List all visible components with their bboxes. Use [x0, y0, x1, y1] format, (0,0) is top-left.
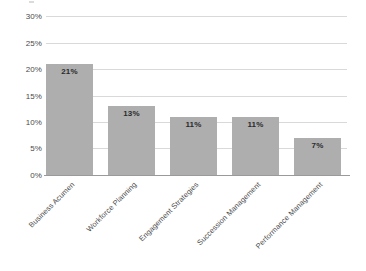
bar-chart: 30% 25% 20% 15% 10% 5% 0% 21% 13% [0, 0, 366, 271]
bar-value-label-4: 7% [294, 141, 341, 150]
y-tick-label-10: 10% [26, 118, 42, 127]
bar-slot-0: 21% [46, 16, 93, 175]
x-axis-baseline [44, 175, 350, 176]
bar-value-label-0: 21% [46, 67, 93, 76]
bar-business-acumen[interactable]: 21% [46, 64, 93, 175]
bar-performance-management[interactable]: 7% [294, 138, 341, 175]
x-axis-category-labels: Business Acumen Workforce Planning Engag… [46, 178, 347, 268]
x-label-slot-4: Performance Management [294, 178, 341, 268]
bar-slot-2: 11% [170, 16, 217, 175]
x-label-business-acumen: Business Acumen [26, 180, 75, 229]
y-tick-label-5: 5% [30, 144, 42, 153]
y-tick-label-0: 0% [30, 171, 42, 180]
y-tick-label-20: 20% [26, 64, 42, 73]
bar-succession-management[interactable]: 11% [232, 117, 279, 175]
y-tick-label-25: 25% [26, 38, 42, 47]
y-tick-label-15: 15% [26, 91, 42, 100]
y-tick-label-30: 30% [26, 12, 42, 21]
x-label-slot-1: Workforce Planning [108, 178, 155, 268]
bar-slot-1: 13% [108, 16, 155, 175]
bar-value-label-3: 11% [232, 120, 279, 129]
bar-series: 21% 13% 11% 11% 7% [46, 16, 347, 175]
x-label-slot-0: Business Acumen [46, 178, 93, 268]
y-axis: 30% 25% 20% 15% 10% 5% 0% [0, 16, 42, 175]
bar-slot-4: 7% [294, 16, 341, 175]
bar-workforce-planning[interactable]: 13% [108, 106, 155, 175]
bar-value-label-1: 13% [108, 109, 155, 118]
plot-area: 21% 13% 11% 11% 7% [46, 16, 347, 175]
clipped-title-artifact [29, 1, 34, 3]
bar-slot-3: 11% [232, 16, 279, 175]
bar-value-label-2: 11% [170, 120, 217, 129]
x-label-slot-2: Engagement Strategies [170, 178, 217, 268]
bar-engagement-strategies[interactable]: 11% [170, 117, 217, 175]
x-label-slot-3: Succession Management [232, 178, 279, 268]
